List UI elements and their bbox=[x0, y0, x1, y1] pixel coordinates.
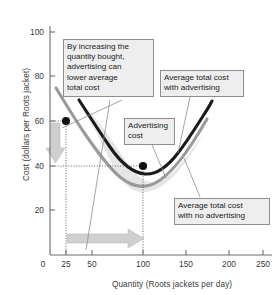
data-point-100-40 bbox=[139, 162, 147, 170]
x-tick-label-200: 200 bbox=[217, 259, 241, 269]
annotation-atc-no-advertising: Average total cost with no advertising bbox=[174, 198, 270, 225]
y-tick-label-20: 20 bbox=[20, 205, 44, 215]
x-tick-label-150: 150 bbox=[174, 259, 198, 269]
leader-atc-no-advertising bbox=[184, 158, 200, 197]
quantity-increase-arrow bbox=[67, 229, 144, 248]
x-tick-label-50: 50 bbox=[80, 259, 104, 269]
annotation-atc-with-advertising: Average total cost with advertising bbox=[160, 70, 244, 97]
x-tick-label-250: 250 bbox=[251, 259, 275, 269]
chart-figure: 100 80 60 40 20 0 25 50 100 150 200 250 … bbox=[0, 0, 279, 295]
data-point-25-60 bbox=[62, 117, 70, 125]
annotation-advertising-cost: Advertising cost bbox=[124, 118, 175, 145]
x-tick-label-25: 25 bbox=[54, 259, 78, 269]
x-tick-label-0: 0 bbox=[31, 259, 55, 269]
y-axis-title: Cost (dollars per Roots jacket) bbox=[22, 50, 31, 200]
cost-decrease-arrow bbox=[46, 123, 65, 163]
annotation-increase-quantity: By increasing the quantity bought, adver… bbox=[63, 39, 154, 97]
x-axis-title: Quantity (Roots jackets per day) bbox=[112, 280, 232, 289]
y-tick-label-100: 100 bbox=[20, 27, 44, 37]
x-tick-label-100: 100 bbox=[131, 259, 155, 269]
